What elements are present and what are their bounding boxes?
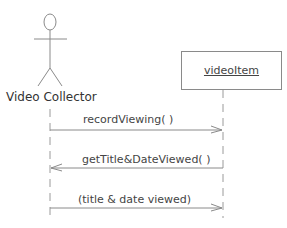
message-label-title-date-return: (title & date viewed) xyxy=(78,194,191,205)
message-label-record-viewing: recordViewing( ) xyxy=(83,114,173,125)
actor-figure-icon xyxy=(34,14,67,86)
object-label: videoItem xyxy=(204,64,259,77)
object-box: videoItem xyxy=(181,51,282,90)
actor-label: Video Collector xyxy=(6,91,97,103)
message-arrow-record-viewing xyxy=(50,126,222,133)
message-label-get-title-date: getTitle&DateViewed( ) xyxy=(82,154,210,165)
